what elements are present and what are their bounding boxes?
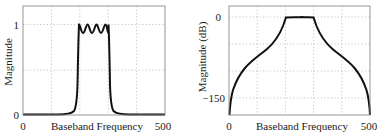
xtick-max: 500 [155, 120, 172, 132]
xtick-min: 0 [226, 120, 232, 132]
axes-box [229, 6, 370, 115]
db-magnitude-chart: 0 −150 0 500 Baseband Frequency Magnitud… [192, 0, 384, 139]
x-axis-label: Baseband Frequency [51, 120, 143, 132]
linear-magnitude-chart: 1 0 0 500 Baseband Frequency Magnitude [0, 0, 192, 139]
ytick-bottom: 0 [14, 109, 20, 121]
grid [23, 6, 165, 115]
magnitude-curve [23, 25, 165, 115]
x-axis-label: Baseband Frequency [256, 120, 348, 132]
xtick-max: 500 [361, 120, 378, 132]
y-axis-label: Magnitude (dB) [196, 21, 209, 92]
ytick-top: 1 [14, 19, 20, 31]
grid [229, 6, 370, 115]
y-axis-label: Magnitude [2, 38, 14, 86]
ytick-bottom: −150 [202, 92, 225, 104]
axes-box [23, 6, 165, 115]
db-magnitude-curve [230, 17, 371, 115]
xtick-min: 0 [20, 120, 26, 132]
ytick-top: 0 [216, 11, 222, 23]
